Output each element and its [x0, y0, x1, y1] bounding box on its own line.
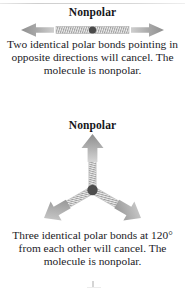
section-2-caption: Three identical polar bonds at 120° from… [4, 229, 181, 269]
page-bottom-artifact [78, 281, 112, 295]
trigonal-planar-molecule-diagram [0, 131, 185, 229]
left-dipole-arrow [21, 23, 54, 37]
top-divider-line [0, 3, 185, 4]
linear-molecule-diagram [0, 20, 185, 40]
diagram-page: Nonpolar [0, 0, 185, 303]
section-1-caption: Two identical polar bonds pointing in op… [4, 38, 181, 78]
central-atom-node [89, 26, 96, 33]
trigonal-dipole-svg [0, 131, 185, 229]
linear-dipole-svg [0, 20, 185, 40]
up-dipole-arrow [82, 134, 104, 190]
section-1-heading: Nonpolar [0, 6, 185, 18]
right-dipole-arrow [131, 23, 164, 37]
section-2-heading: Nonpolar [0, 119, 185, 131]
central-atom-node [87, 185, 97, 195]
